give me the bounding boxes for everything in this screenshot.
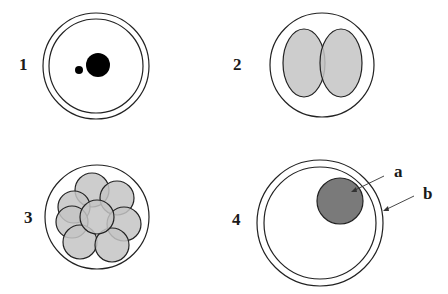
panel-1: 1: [19, 13, 149, 119]
panel-4: 4 a b: [232, 160, 432, 286]
pointer-a: [353, 176, 384, 191]
embryo-stages-diagram: 1 2 3 4 a b: [0, 0, 448, 294]
blastomere-left: [283, 29, 325, 97]
outer-membrane: [257, 160, 383, 286]
panel-3: 3: [24, 165, 149, 269]
small-pronucleus: [75, 66, 83, 74]
annotation-a: a: [394, 162, 403, 181]
panel-2: 2: [233, 13, 374, 117]
panel-4-label: 4: [232, 210, 241, 229]
blastomere-right: [320, 29, 362, 97]
inner-cell-mass: [317, 178, 363, 224]
arrowhead-b-icon: [383, 206, 389, 211]
panel-1-label: 1: [19, 55, 28, 74]
inner-membrane: [264, 167, 376, 279]
panel-2-label: 2: [233, 55, 242, 74]
panel-3-label: 3: [24, 208, 33, 227]
annotation-b: b: [423, 184, 432, 203]
blastomere: [80, 200, 114, 234]
pointer-b: [385, 196, 414, 210]
large-pronucleus: [86, 53, 110, 77]
